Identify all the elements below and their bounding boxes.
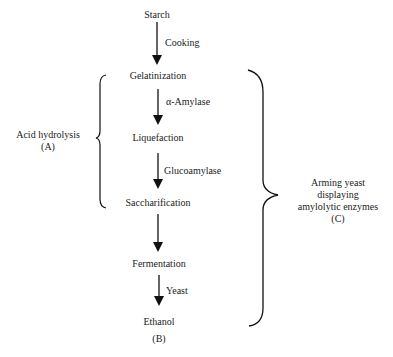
group-a-line-2: (A) [16, 141, 80, 153]
right-brace [248, 70, 278, 326]
arrow-label-yeast: Yeast [166, 285, 188, 297]
arrow-label-cooking: Cooking [165, 37, 199, 49]
stage-liquefaction: Liquefaction [132, 132, 183, 144]
group-c-line-3: amylolytic enzymes [298, 201, 378, 213]
stage-starch: Starch [144, 9, 170, 21]
group-a-line-1: Acid hydrolysis [16, 129, 80, 141]
group-c-line-4: (C) [298, 213, 378, 225]
stage-gelatinization: Gelatinization [130, 70, 187, 82]
arrow-alpha-amylase [153, 89, 163, 125]
group-c-label: Arming yeast displaying amylolytic enzym… [298, 177, 378, 225]
group-a-label: Acid hydrolysis (A) [16, 129, 80, 153]
arrow-cooking [152, 22, 162, 65]
left-brace [96, 75, 106, 208]
arrow-saccharification-to-fermentation [153, 214, 163, 252]
stage-saccharification: Saccharification [126, 197, 191, 209]
stage-ethanol-tag: (B) [152, 333, 165, 345]
arrow-yeast [154, 275, 164, 306]
group-c-line-1: Arming yeast [298, 177, 378, 189]
arrow-glucoamylase [153, 153, 163, 189]
stage-ethanol: Ethanol [143, 316, 174, 328]
group-c-line-2: displaying [298, 189, 378, 201]
arrow-label-glucoamylase: Glucoamylase [164, 165, 221, 177]
stage-fermentation: Fermentation [132, 258, 185, 270]
arrow-label-alpha-amylase: α-Amylase [166, 96, 210, 108]
